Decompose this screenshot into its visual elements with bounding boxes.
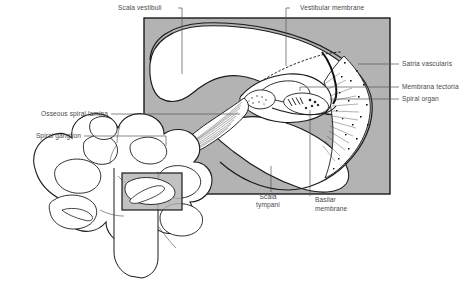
label-basilar-membrane-line2: membrane [315,205,347,213]
label-scala-tympani-line1: Scala [246,193,290,201]
diagram-canvas [0,0,465,282]
label-scala-tympani-line2: tympani [246,201,290,209]
label-stria-vascularis: Satria vascularis [402,60,452,68]
label-spiral-organ: Spiral organ [402,95,439,103]
label-scala-vestibuli: Scala vestibuli [118,4,162,12]
label-membrana-tectoria: Membrana tectoria [402,83,459,91]
label-vestibular-membrane: Vestibular membrane [300,4,364,12]
cochlea-diagram: Scala vestibuli Vestibular membrane Satr… [0,0,465,282]
label-basilar-membrane-line1: Basilar [315,196,336,204]
label-osseous-spiral-lamina: Osseous spiral lamina [0,110,108,118]
label-spiral-ganglion: Spiral ganglion [0,132,81,140]
